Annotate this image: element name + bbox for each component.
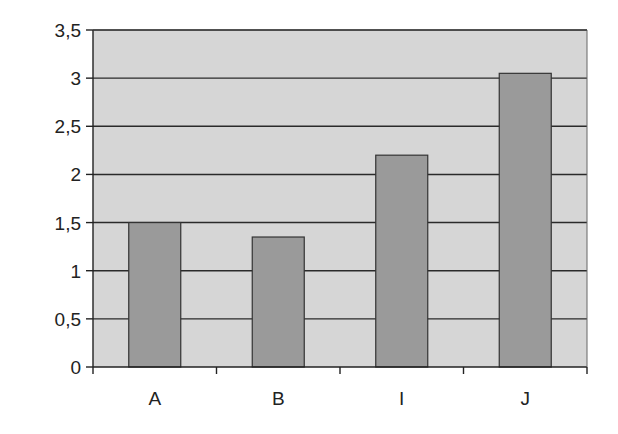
y-tick-label: 1: [70, 261, 81, 282]
y-tick-label: 3,5: [55, 20, 81, 41]
x-tick-label: B: [272, 388, 285, 409]
bar-chart: 00,511,522,533,5 ABIJ: [0, 0, 618, 434]
y-tick-label: 2,5: [55, 116, 81, 137]
x-tick-label: A: [148, 388, 161, 409]
y-tick-label: 3: [70, 68, 81, 89]
bar-a: [129, 223, 181, 367]
y-tick-label: 0,5: [55, 309, 81, 330]
bar-b: [252, 237, 304, 367]
y-axis-ticks: 00,511,522,533,5: [55, 20, 93, 378]
y-tick-label: 1,5: [55, 213, 81, 234]
bar-j: [499, 73, 551, 367]
y-tick-label: 2: [70, 164, 81, 185]
bar-i: [376, 155, 428, 367]
x-tick-label: I: [399, 388, 404, 409]
x-tick-label: J: [521, 388, 531, 409]
x-axis-ticks: ABIJ: [93, 367, 587, 409]
y-tick-label: 0: [70, 357, 81, 378]
